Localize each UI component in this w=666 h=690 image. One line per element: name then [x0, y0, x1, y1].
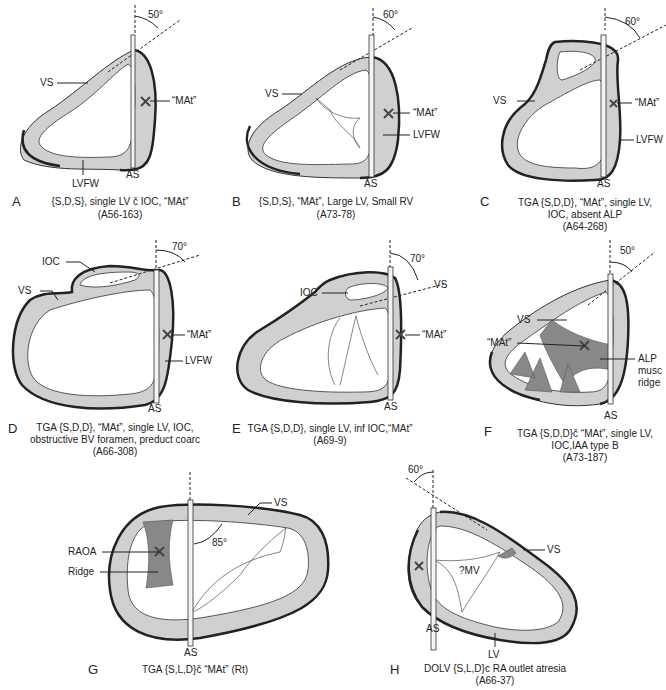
panel-letter: F	[484, 424, 492, 439]
caption-line: TGA {S,D,D}, “MAt”, single LV,	[518, 197, 652, 208]
label-lvfw: LVFW	[72, 178, 100, 189]
caption-line: DOLV {S,L,D}c RA outlet atresia	[424, 663, 567, 674]
caption-line: TGA {S,L,D}č “MAt” (Rt)	[142, 664, 248, 675]
label-as: AS	[426, 623, 440, 634]
panel-c: 60° VS “MAt” LVFW AS C TGA {S,D,D}, “MAt…	[480, 8, 666, 232]
label-vs: VS	[18, 285, 32, 296]
label-vs: VS	[547, 544, 561, 555]
angle-label: 70°	[172, 241, 187, 252]
angle-label: 70°	[410, 253, 425, 264]
panel-d: 70° IOC VS “MAt” LVFW AS D TGA {S,D,D}, …	[8, 240, 213, 457]
caption-code: (A66-308)	[93, 446, 137, 457]
panel-g: 85° VS RAOA Ridge AS G TGA {S,L,D}č “MAt…	[68, 472, 328, 677]
panel-letter: A	[12, 194, 21, 209]
label-lvfw: LVFW	[636, 134, 664, 145]
atrial-septum-plane	[131, 35, 135, 168]
atrial-septum-plane	[154, 270, 159, 403]
figure-canvas: 50° VS “MAt” LVFW AS A {S,D,S}, single L…	[0, 0, 666, 690]
label-as: AS	[184, 647, 198, 658]
label-mat: “MAt”	[635, 97, 659, 108]
label-ioc: IOC	[42, 256, 60, 267]
caption-line: TGA {S,D,D}, single LV, inf IOC,“MAt”	[247, 423, 412, 434]
panel-letter: C	[480, 194, 489, 209]
label-alp: musc	[638, 365, 662, 376]
caption-code: (A56-163)	[98, 209, 142, 220]
panel-e: 70° VS IOC “MAt” AS E TGA {S,D,D}, singl…	[232, 240, 448, 446]
label-as: AS	[126, 169, 140, 180]
panel-a: 50° VS “MAt” LVFW AS A {S,D,S}, single L…	[12, 5, 196, 220]
caption-line: obstructive BV foramen, preduct coarc	[30, 434, 200, 445]
atrial-septum-plane	[388, 267, 393, 400]
caption-code: (A73-78)	[317, 209, 356, 220]
panel-letter: G	[88, 662, 98, 677]
atrial-septum-plane	[369, 35, 374, 177]
panel-letter: H	[390, 662, 399, 677]
caption-line: {S,D,S}, single LV č IOC, “MAt”	[51, 196, 188, 207]
label-vs: VS	[40, 77, 54, 88]
label-vs: VS	[434, 279, 448, 290]
label-mat: “MAt”	[422, 329, 446, 340]
label-lvfw: LVFW	[413, 129, 441, 140]
atrial-septum-plane	[188, 500, 193, 646]
label-as: AS	[148, 403, 162, 414]
caption-code: (A69-9)	[313, 435, 346, 446]
caption-code: (A66-37)	[476, 675, 515, 686]
angle-label: 60°	[383, 9, 398, 20]
panel-f: 50° VS “MAt” ALP musc ridge AS F TGA {S,…	[484, 240, 662, 463]
label-mv: ?MV	[459, 565, 480, 576]
label-as: AS	[604, 410, 618, 421]
caption-line: IOC, absent ALP	[548, 209, 623, 220]
label-mat: “MAt”	[487, 337, 511, 348]
caption-line: TGA {S,D,D}č “MAt”, single LV,	[517, 428, 653, 439]
caption-line: IOC,IAA type B	[551, 440, 619, 451]
panel-b: 60° VS “MAt” LVFW AS B {S,D,S}, “MAt”, L…	[232, 8, 441, 220]
panel-letter: B	[232, 194, 241, 209]
angle-label: 85°	[212, 537, 227, 548]
atrial-septum-plane	[608, 274, 613, 404]
label-lv: LV	[488, 649, 500, 660]
atrial-septum-plane	[601, 35, 606, 177]
label-vs: VS	[493, 95, 507, 106]
angle-label: 50°	[620, 245, 635, 256]
label-raoa: RAOA	[68, 546, 97, 557]
label-mat: “MAt”	[413, 107, 437, 118]
caption-line: TGA {S,D,D}, “MAt”, single LV, IOC,	[36, 422, 193, 433]
panel-letter: E	[232, 421, 241, 436]
angle-label: 60°	[625, 16, 640, 27]
caption-line: {S,D,S}, “MAt”, Large LV, Small RV	[259, 196, 414, 207]
caption-code: (A64-268)	[563, 221, 607, 232]
angle-label: 50°	[148, 9, 163, 20]
label-mat: “MAt”	[172, 95, 196, 106]
angle-label: 60°	[408, 464, 423, 475]
label-ioc: IOC	[300, 287, 318, 298]
caption-code: (A73-187)	[563, 452, 607, 463]
label-vs: VS	[517, 314, 531, 325]
label-vs: VS	[274, 497, 288, 508]
label-as: AS	[384, 401, 398, 412]
label-alp: ridge	[638, 377, 661, 388]
label-alp: ALP	[638, 353, 657, 364]
panel-h: 60° VS ?MV LV AS H DOLV {S,L,D}c RA outl…	[390, 464, 577, 686]
label-as: AS	[597, 178, 611, 189]
panel-letter: D	[8, 421, 17, 436]
label-ridge: Ridge	[68, 566, 95, 577]
label-as: AS	[364, 178, 378, 189]
label-mat: “MAt”	[187, 329, 211, 340]
label-vs: VS	[265, 88, 279, 99]
label-lvfw: LVFW	[185, 355, 213, 366]
